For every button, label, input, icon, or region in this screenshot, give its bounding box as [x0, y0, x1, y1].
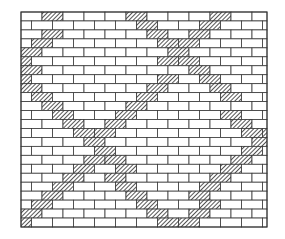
- brick: [168, 102, 189, 111]
- brick: [200, 146, 221, 155]
- brick: [137, 75, 158, 84]
- brick: [74, 111, 95, 120]
- hatched-brick: [221, 111, 242, 120]
- brick: [137, 164, 158, 173]
- hatched-brick: [137, 200, 158, 209]
- brick: [137, 57, 158, 66]
- hatched-brick: [21, 84, 42, 93]
- hatched-brick: [42, 30, 63, 39]
- brick: [32, 75, 53, 84]
- brick: [189, 48, 210, 57]
- brick: [242, 75, 263, 84]
- brick: [74, 146, 95, 155]
- brick: [84, 209, 105, 218]
- brick: [242, 39, 263, 48]
- hatched-brick: [179, 218, 200, 227]
- brick: [116, 21, 137, 30]
- brick: [179, 200, 200, 209]
- hatched-brick: [179, 39, 200, 48]
- brick: [63, 48, 84, 57]
- hatched-brick: [221, 164, 242, 173]
- hatched-brick: [137, 93, 158, 102]
- hatched-brick: [242, 146, 263, 155]
- hatched-brick: [116, 182, 137, 191]
- brick: [200, 57, 221, 66]
- brick: [210, 209, 231, 218]
- hatched-brick: [189, 66, 210, 75]
- brick-wall-drawing: [0, 0, 285, 239]
- brick: [53, 128, 74, 137]
- hatched-brick: [231, 120, 252, 129]
- brick: [137, 218, 158, 227]
- brick: [200, 93, 221, 102]
- hatched-brick: [126, 191, 147, 200]
- brick: [84, 191, 105, 200]
- hatched-brick: [32, 93, 53, 102]
- brick: [95, 218, 116, 227]
- brick: [179, 111, 200, 120]
- brick: [147, 191, 168, 200]
- brick: [32, 57, 53, 66]
- hatched-brick: [200, 182, 221, 191]
- brick: [95, 93, 116, 102]
- brick: [263, 75, 268, 84]
- brick: [42, 173, 63, 182]
- brick: [116, 39, 137, 48]
- brick-grid: [21, 12, 267, 227]
- brick: [221, 21, 242, 30]
- brick: [221, 75, 242, 84]
- brick: [63, 191, 84, 200]
- brick: [252, 191, 267, 200]
- brick: [231, 48, 252, 57]
- brick: [42, 155, 63, 164]
- brick: [53, 39, 74, 48]
- brick: [126, 84, 147, 93]
- hatched-brick: [200, 75, 221, 84]
- brick: [252, 30, 267, 39]
- brick: [147, 102, 168, 111]
- brick: [231, 66, 252, 75]
- brick: [105, 137, 126, 146]
- brick: [21, 146, 32, 155]
- hatched-brick: [105, 120, 126, 129]
- hatched-brick: [137, 21, 158, 30]
- hatched-brick: [210, 84, 231, 93]
- brick: [84, 30, 105, 39]
- brick: [263, 182, 268, 191]
- brick: [21, 191, 42, 200]
- brick: [53, 200, 74, 209]
- hatched-brick: [147, 209, 168, 218]
- brick: [252, 12, 267, 21]
- hatched-brick: [74, 164, 95, 173]
- brick: [158, 128, 179, 137]
- brick: [231, 30, 252, 39]
- brick: [53, 75, 74, 84]
- brick: [189, 84, 210, 93]
- brick-wall-svg: [0, 0, 285, 239]
- brick: [137, 39, 158, 48]
- hatched-brick: [21, 66, 42, 75]
- brick: [252, 155, 267, 164]
- brick: [158, 93, 179, 102]
- brick: [221, 146, 242, 155]
- brick: [242, 21, 263, 30]
- brick: [189, 12, 210, 21]
- brick: [53, 57, 74, 66]
- brick: [179, 146, 200, 155]
- hatched-brick: [210, 12, 231, 21]
- brick: [74, 182, 95, 191]
- brick: [137, 182, 158, 191]
- brick: [242, 182, 263, 191]
- brick: [231, 191, 252, 200]
- brick: [147, 173, 168, 182]
- brick: [105, 66, 126, 75]
- hatched-brick: [116, 164, 137, 173]
- brick: [158, 146, 179, 155]
- brick: [137, 128, 158, 137]
- brick: [74, 57, 95, 66]
- brick: [74, 218, 95, 227]
- brick: [63, 155, 84, 164]
- brick: [263, 218, 268, 227]
- brick: [95, 111, 116, 120]
- brick: [74, 21, 95, 30]
